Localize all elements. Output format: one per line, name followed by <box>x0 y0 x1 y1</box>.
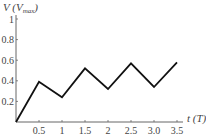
y-tick-label: 0.8 <box>2 34 15 45</box>
y-tick-label: 0.4 <box>2 75 15 86</box>
x-tick-label: 2 <box>106 125 111 136</box>
x-tick-label: 3.5 <box>171 125 184 136</box>
x-tick-label: 0.5 <box>33 125 46 136</box>
axes <box>16 15 183 122</box>
x-tick-label: 1 <box>60 125 65 136</box>
y-tick-label: 1 <box>9 14 14 25</box>
x-tick-label: 1.5 <box>79 125 92 136</box>
x-axis-label: t (T) <box>187 112 206 125</box>
voltage-chart: 0.511.522.53.03.50.20.40.60.81 V (Vmax) … <box>0 0 206 136</box>
x-tick-label: 3.0 <box>148 125 161 136</box>
y-tick-label: 0.6 <box>2 55 15 66</box>
y-tick-label: 0.2 <box>2 96 15 107</box>
y-axis-label: V (Vmax) <box>3 1 38 15</box>
plot-area: 0.511.522.53.03.50.20.40.60.81 V (Vmax) … <box>0 0 206 136</box>
x-tick-label: 2.5 <box>125 125 138 136</box>
voltage-curve <box>16 62 177 122</box>
